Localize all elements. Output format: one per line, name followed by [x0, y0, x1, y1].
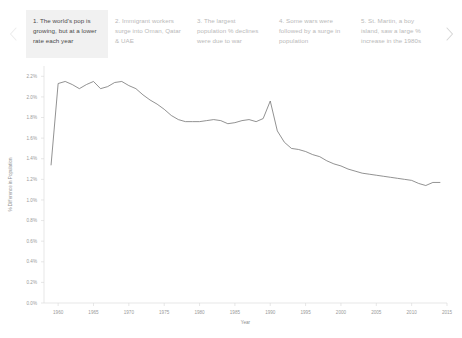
- x-tick-label: 2015: [442, 310, 453, 315]
- insight-card-5[interactable]: 5. St. Martin, a boy island, saw a large…: [354, 10, 436, 58]
- insight-card-1-text: 1. The world's pop is growing, but at a …: [33, 17, 97, 44]
- insight-card-2[interactable]: 2. Immigrant workers surge into Oman, Qa…: [108, 10, 190, 58]
- y-tick-label: 0.6%: [27, 239, 37, 244]
- insight-card-5-text: 5. St. Martin, a boy island, saw a large…: [361, 17, 421, 44]
- insight-card-4-text: 4. Some wars were followed by a surge in…: [279, 17, 340, 44]
- y-tick-label: 1.0%: [27, 198, 37, 203]
- x-axis-title: Year: [241, 320, 251, 325]
- y-axis-title: % Difference in Population: [8, 157, 13, 211]
- series-line-world-population-growth: [51, 81, 440, 185]
- x-tick-label: 1965: [88, 310, 99, 315]
- insight-card-3[interactable]: 3. The largest population % declines wer…: [190, 10, 272, 58]
- carousel-next-button[interactable]: [436, 10, 462, 58]
- x-tick-label: 2010: [407, 310, 418, 315]
- insight-carousel: 1. The world's pop is growing, but at a …: [0, 10, 462, 58]
- y-tick-label: 1.4%: [27, 156, 37, 161]
- x-tick-label: 1980: [194, 310, 205, 315]
- y-tick-label: 1.2%: [27, 177, 37, 182]
- x-axis-tick-marks: [58, 303, 447, 306]
- x-tick-label: 2005: [371, 310, 382, 315]
- y-tick-label: 2.0%: [27, 95, 37, 100]
- x-tick-label: 1990: [265, 310, 276, 315]
- chevron-right-icon: [445, 27, 454, 41]
- insight-card-list: 1. The world's pop is growing, but at a …: [26, 10, 436, 58]
- x-tick-label: 1985: [230, 310, 241, 315]
- insight-card-3-text: 3. The largest population % declines wer…: [197, 17, 258, 44]
- y-tick-label: 0.8%: [27, 218, 37, 223]
- y-tick-label: 1.8%: [27, 115, 37, 120]
- x-tick-label: 2000: [336, 310, 347, 315]
- y-axis-tick-labels: 0.0%0.2%0.4%0.6%0.8%1.0%1.2%1.4%1.6%1.8%…: [27, 74, 37, 306]
- chevron-left-icon: [9, 27, 18, 41]
- y-tick-label: 1.6%: [27, 136, 37, 141]
- y-tick-label: 2.2%: [27, 74, 37, 79]
- y-tick-label: 0.4%: [27, 259, 37, 264]
- x-tick-label: 1960: [53, 310, 64, 315]
- x-tick-label: 1970: [124, 310, 135, 315]
- x-axis-tick-labels: 1960196519701975198019851990199520002005…: [53, 310, 453, 315]
- insight-card-1[interactable]: 1. The world's pop is growing, but at a …: [26, 10, 108, 58]
- chart-canvas: 0.0%0.2%0.4%0.6%0.8%1.0%1.2%1.4%1.6%1.8%…: [0, 58, 462, 338]
- population-growth-chart: 0.0%0.2%0.4%0.6%0.8%1.0%1.2%1.4%1.6%1.8%…: [0, 58, 462, 338]
- y-tick-label: 0.0%: [27, 301, 37, 306]
- x-tick-label: 1975: [159, 310, 170, 315]
- x-tick-label: 1995: [300, 310, 311, 315]
- carousel-prev-button[interactable]: [0, 10, 26, 58]
- y-tick-label: 0.2%: [27, 280, 37, 285]
- y-axis-tick-marks: [41, 76, 44, 303]
- insight-card-4[interactable]: 4. Some wars were followed by a surge in…: [272, 10, 354, 58]
- insight-card-2-text: 2. Immigrant workers surge into Oman, Qa…: [115, 17, 181, 44]
